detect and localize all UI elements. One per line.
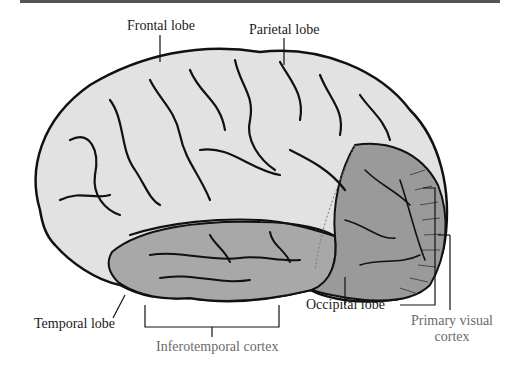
label-primary-visual-line2: cortex [402, 329, 502, 345]
label-frontal-lobe: Frontal lobe [127, 18, 195, 34]
label-occipital-lobe: Occipital lobe [306, 297, 385, 313]
label-parietal-lobe: Parietal lobe [249, 22, 319, 38]
label-primary-visual-line1: Primary visual [402, 313, 502, 329]
label-temporal-lobe: Temporal lobe [34, 316, 115, 332]
brain-diagram-figure: Frontal lobe Parietal lobe Temporal lobe… [0, 0, 510, 371]
label-primary-visual-cortex: Primary visual cortex [402, 313, 502, 345]
label-inferotemporal-cortex: Inferotemporal cortex [156, 339, 278, 355]
